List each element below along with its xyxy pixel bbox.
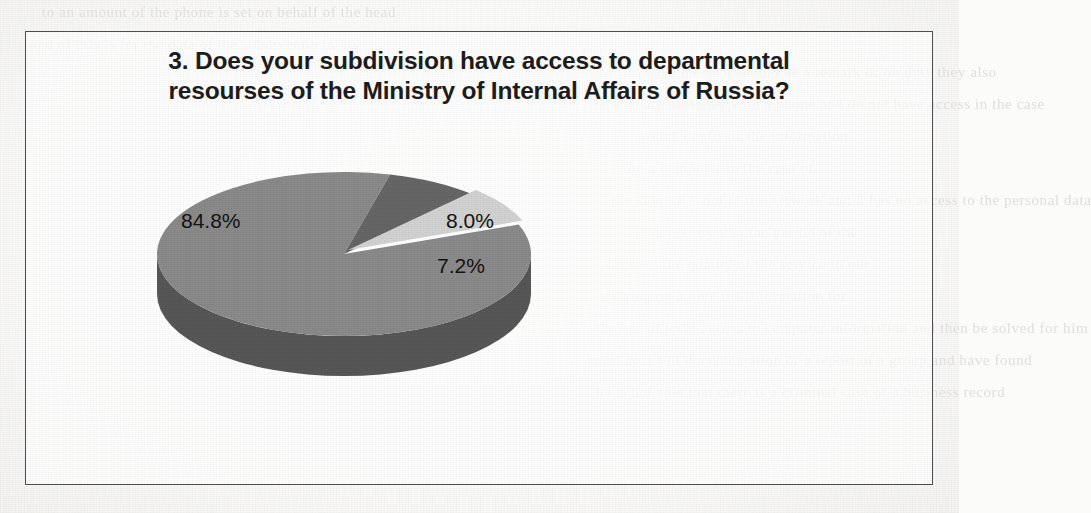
pie-chart: 84.8% 8.0% 7.2% xyxy=(26,32,934,486)
pie-label-8-0: 8.0% xyxy=(446,209,494,233)
chart-frame: 3. Does your subdivision have access to … xyxy=(25,31,933,485)
pie-label-7-2: 7.2% xyxy=(437,254,485,278)
pie-chart-svg xyxy=(144,120,564,420)
pie-label-84-8: 84.8% xyxy=(181,209,241,233)
ghost-text-line: to an amount of the phone is set on beha… xyxy=(42,4,396,21)
